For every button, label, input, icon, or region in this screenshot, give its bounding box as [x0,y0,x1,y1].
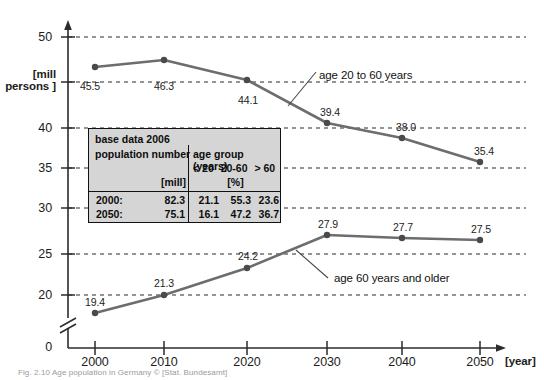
y-tick-label-30: 30 [18,201,52,215]
y-tick-label-20: 20 [18,288,52,302]
base-data-title: base data 2006 [95,133,170,145]
subheader-lt20: < 20 [193,162,214,174]
x-axis-unit-label: [year] [505,355,536,367]
row-population: 75.1 [137,208,185,220]
series-point [399,235,405,241]
figure-caption: Fig. 2.10 Age population in Germany © [S… [18,368,227,377]
data-label-19-4: 19.4 [75,296,115,308]
y-axis-unit-line1: [mill [0,68,56,80]
series-point [477,159,483,165]
data-label-46-3: 46.3 [144,80,184,92]
y-axis-unit-label: [mill persons ] [0,68,56,92]
age-group-subheaders: < 20 20-60 > 60 [193,162,275,174]
row-20-60: 55.3 [225,194,251,206]
table-horizontal-rule [89,191,281,192]
x-tick-label-2050: 2050 [450,355,510,369]
row-population: 82.3 [137,194,185,206]
y-tick-label-40: 40 [18,121,52,135]
series-point [324,120,330,126]
data-label-21-3: 21.3 [144,277,184,289]
data-label-44-1: 44.1 [228,94,268,106]
series-point [92,310,98,316]
row-lt20: 16.1 [193,208,219,220]
row-gt60: 23.6 [255,194,279,206]
x-tick-label-2000: 2000 [65,355,125,369]
row-20-60: 47.2 [225,208,251,220]
population-number-header: population number [95,148,190,160]
series-point [161,292,167,298]
series-point [244,77,250,83]
series-point [244,265,250,271]
y-tick-label-35: 35 [18,161,52,175]
series-point [92,64,98,70]
leader-line-age-20-60 [288,72,316,106]
subheader-20-60: 20-60 [217,162,248,174]
subheader-gt60: > 60 [250,162,275,174]
x-tick-label-2040: 2040 [372,355,432,369]
row-year: 2050: [96,208,123,220]
x-tick-label-2010: 2010 [134,355,194,369]
series-point [399,135,405,141]
series-point [161,57,167,63]
series-point [477,237,483,243]
y-axis-unit-line2: persons ] [0,80,56,92]
row-gt60: 36.7 [255,208,279,220]
annotation-age-60-plus: age 60 years and older [334,272,449,284]
data-label-27-7: 27.7 [383,221,423,233]
annotation-age-20-60: age 20 to 60 years [319,69,412,81]
data-label-27-9: 27.9 [308,218,348,230]
data-label-39-4: 39.4 [310,106,350,118]
y-tick-label-0: 0 [18,340,52,354]
x-tick-label-2020: 2020 [217,355,277,369]
data-label-38-0: 38.0 [386,121,426,133]
base-data-table: base data 2006 population number age gro… [88,128,281,223]
row-lt20: 21.1 [193,194,219,206]
figure-container: 50 [mill persons ] 40 35 30 25 20 0 2000… [0,0,544,380]
y-tick-label-50: 50 [18,30,52,44]
row-year: 2000: [96,194,123,206]
x-axis-arrow [496,344,506,352]
table-row: 2050: 75.1 16.1 47.2 36.7 [89,208,281,223]
data-label-45-5: 45.5 [70,80,110,92]
data-label-35-4: 35.4 [464,145,504,157]
data-label-27-5: 27.5 [461,223,501,235]
population-unit: [mill] [144,176,186,188]
y-axis-arrow [64,20,72,30]
series-point [324,232,330,238]
percent-unit: [%] [193,176,278,188]
data-label-24-2: 24.2 [228,250,268,262]
x-tick-label-2030: 2030 [297,355,357,369]
y-tick-label-25: 25 [18,247,52,261]
